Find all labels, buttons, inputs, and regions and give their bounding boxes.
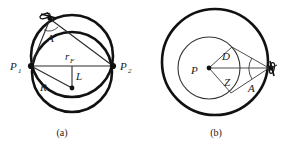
label-p2: P (119, 60, 127, 72)
label-A: A (46, 32, 54, 44)
panel-a: P 1 P 2 r F L R A (9, 12, 132, 112)
label-p1: P (9, 60, 17, 72)
panel-b-ray-upper-to-satellite (232, 47, 269, 68)
figure-svg: P 1 P 2 r F L R A (0, 0, 294, 144)
panel-a-node-p1 (28, 63, 34, 69)
panel-a-node-center (70, 86, 75, 91)
panel-b-node-center-p (207, 66, 212, 71)
label-p2-subscript: 2 (128, 67, 132, 75)
panel-b-angle-arc-A (249, 58, 252, 79)
label-R: R (39, 81, 47, 93)
figure-root: P 1 P 2 r F L R A (0, 0, 294, 144)
label-D: D (221, 50, 230, 62)
caption-b: (b) (210, 127, 222, 139)
panel-a-node-p2 (110, 63, 116, 69)
label-rf-subscript: F (69, 57, 75, 65)
label-P: P (190, 64, 198, 76)
panel-b: P D Z A (162, 9, 277, 115)
satellite-icon (268, 61, 277, 76)
panel-b-labels: P D Z A (190, 50, 255, 94)
label-p1-subscript: 1 (18, 67, 22, 75)
label-Z: Z (224, 76, 231, 88)
label-A-b: A (247, 82, 255, 94)
label-L: L (75, 70, 82, 82)
figure-captions: (a) (b) (56, 127, 221, 139)
panel-a-ray-p2-apex (50, 19, 113, 66)
caption-a: (a) (56, 127, 67, 139)
